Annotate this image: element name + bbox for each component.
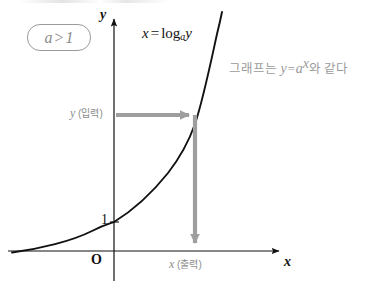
scan-artifact [18,0,168,3]
input-caption-text: (입력) [78,108,103,119]
graph-note: 그래프는 y=ax와 같다 [229,57,348,76]
log-function-figure: a > 1 x=logay 그래프는 y=ax와 같다 y x O 1 y (입… [0,0,370,289]
y-axis-label: y [100,8,106,22]
condition-value: 1 [66,30,74,46]
note-var-y: y [280,61,286,76]
condition-operator: > [52,30,65,46]
equation-label: x=logay [142,26,192,42]
note-equals: = [287,62,296,76]
equation-lhs: x [142,25,149,41]
note-prefix: 그래프는 [229,62,280,76]
input-caption: y (입력) [70,107,103,119]
condition-base: a [44,30,52,46]
origin-label: O [91,253,102,267]
x-axis-label: x [284,255,291,269]
equation-argument: y [185,25,192,41]
equation-log: log [161,25,180,41]
output-caption-var: x [169,257,174,271]
y-unit-label: 1 [101,213,108,227]
note-base: a [296,61,303,76]
equation-equals: = [149,25,161,41]
output-caption: x (출력) [169,258,202,270]
input-caption-var: y [70,106,75,120]
output-caption-text: (출력) [177,259,202,270]
condition-badge: a > 1 [27,24,91,51]
note-suffix: 와 같다 [309,62,348,76]
